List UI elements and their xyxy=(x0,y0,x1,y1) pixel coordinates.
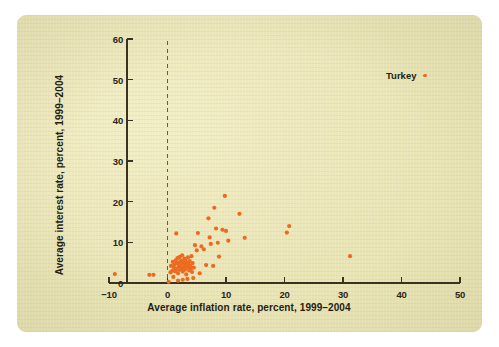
scatter-point xyxy=(167,280,171,284)
x-axis-tick-label: 20 xyxy=(279,289,289,300)
scatter-point xyxy=(211,264,215,268)
x-axis-tick-label: 10 xyxy=(221,289,231,300)
scatter-point xyxy=(216,241,220,245)
scatter-point xyxy=(217,254,221,258)
scatter-point xyxy=(185,277,189,281)
turkey-marker-swatch-icon xyxy=(423,74,427,78)
scatter-point xyxy=(226,239,230,243)
x-axis-tick-label: −10 xyxy=(101,289,117,300)
x-axis-title: Average inflation rate, percent, 1999–20… xyxy=(147,302,350,313)
scatter-point xyxy=(208,235,212,239)
scatter-point xyxy=(202,247,206,251)
paper-card: 0102030405060−1001020304050 Average infl… xyxy=(17,15,482,332)
scatter-point xyxy=(196,231,200,235)
x-axis-tick-label: 30 xyxy=(338,289,348,300)
x-axis-tick-label: 0 xyxy=(165,289,170,300)
y-axis-tick-label: 20 xyxy=(103,196,123,207)
x-axis-tick-label: 40 xyxy=(396,289,406,300)
legend: Turkey xyxy=(386,70,427,81)
y-axis-tick-label: 40 xyxy=(103,115,123,126)
scatter-point xyxy=(171,275,175,279)
scatter-point xyxy=(212,206,216,210)
scatter-plot: 0102030405060−1001020304050 Average infl… xyxy=(17,15,482,332)
scatter-point xyxy=(176,278,180,282)
scatter-point xyxy=(147,273,151,277)
scatter-point xyxy=(193,243,197,247)
y-axis-title: Average interest rate, percent, 1999–200… xyxy=(54,75,65,276)
scatter-point xyxy=(151,273,155,277)
scatter-point xyxy=(348,254,352,258)
data-points-layer xyxy=(113,194,352,284)
scatter-point xyxy=(243,236,247,240)
scatter-point xyxy=(204,263,208,267)
scatter-point xyxy=(195,248,199,252)
scatter-point xyxy=(237,212,241,216)
scatter-point xyxy=(223,194,227,198)
x-axis-tick-label: 50 xyxy=(455,289,465,300)
y-axis-tick-label: 0 xyxy=(103,278,123,289)
scatter-point xyxy=(174,231,178,235)
plot-canvas xyxy=(17,15,482,332)
scatter-point xyxy=(181,278,185,282)
scatter-point xyxy=(206,216,210,220)
scatter-point xyxy=(285,230,289,234)
scatter-point xyxy=(224,229,228,233)
y-axis-tick-label: 30 xyxy=(103,156,123,167)
y-axis-tick-label: 10 xyxy=(103,237,123,248)
legend-label-turkey: Turkey xyxy=(386,70,416,81)
scatter-point xyxy=(198,271,202,275)
scatter-point xyxy=(113,272,117,276)
scatter-point xyxy=(214,226,218,230)
scatter-point xyxy=(191,261,195,265)
scatter-point xyxy=(192,265,196,269)
scatter-point xyxy=(191,276,195,280)
scatter-point xyxy=(184,272,188,276)
scatter-point xyxy=(190,270,194,274)
figure-root: 0102030405060−1001020304050 Average infl… xyxy=(0,0,499,347)
y-axis-tick-label: 50 xyxy=(103,74,123,85)
scatter-point xyxy=(189,254,193,258)
scatter-point xyxy=(209,242,213,246)
y-axis-tick-label: 60 xyxy=(103,34,123,45)
scatter-point xyxy=(287,224,291,228)
